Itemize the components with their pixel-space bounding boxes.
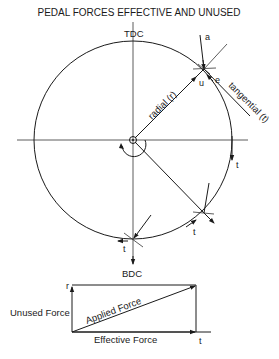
effective-force-label: Effective Force — [94, 334, 157, 345]
applied-label-a: a — [205, 32, 210, 42]
radial-line-lower — [135, 142, 204, 213]
tangent-label-2: t — [193, 227, 196, 237]
tdc-label: TDC — [124, 28, 144, 39]
applied-force-vector — [72, 286, 195, 332]
bdc-label: BDC — [122, 268, 142, 279]
rotation-arc — [122, 140, 146, 157]
tangent-label-1: t — [236, 160, 239, 170]
effective-arrow-icon — [207, 75, 213, 81]
unused-force-label: Unused Force — [10, 307, 70, 318]
tangent-label-3: t — [123, 244, 126, 254]
rect-t-label: t — [199, 336, 202, 346]
diagram-title: PEDAL FORCES EFFECTIVE AND UNUSED — [38, 7, 241, 18]
effective-label-e: e — [215, 75, 220, 85]
lower-right-applied-line — [204, 183, 209, 213]
bottom-applied-arrow-icon — [134, 215, 151, 238]
unused-arrow-icon — [185, 77, 196, 88]
tangential-label: tangential (t) — [227, 80, 272, 125]
pedal-forces-diagram: PEDAL FORCES EFFECTIVE AND UNUSED TDC BD… — [0, 0, 279, 359]
unused-label-u: u — [199, 78, 204, 88]
rect-r-label: r — [66, 281, 69, 291]
applied-force-label: Applied Force — [84, 295, 143, 326]
bottom-crosshair — [124, 233, 143, 247]
rotation-arrow-icon — [119, 143, 124, 149]
radial-label: radial (r) — [146, 89, 179, 122]
lower-right-radial-arrow-icon — [204, 213, 214, 223]
lower-right-tangent-arrow-icon — [186, 220, 196, 227]
applied-arrow-icon — [203, 60, 204, 69]
radial-extension — [204, 44, 227, 69]
